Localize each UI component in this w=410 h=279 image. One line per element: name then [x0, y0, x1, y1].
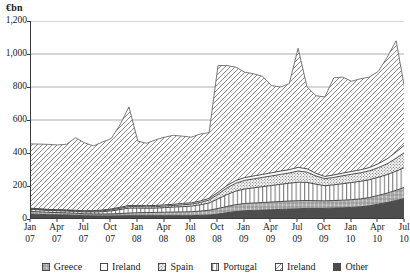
x-axis-tick-mark: [217, 219, 218, 222]
y-axis-tick-label: 1,200: [0, 16, 27, 26]
legend-swatch-icon: [42, 263, 50, 271]
x-axis-tick-mark: [190, 219, 191, 222]
x-axis-tick-mark: [163, 219, 164, 222]
legend-label: Greece: [54, 262, 82, 272]
legend-swatch-icon: [158, 263, 166, 271]
x-axis-tick-label: Oct07: [103, 222, 117, 245]
x-axis-tick-label: Apr07: [49, 222, 64, 245]
legend-swatch-icon: [211, 263, 219, 271]
y-axis-tick-label: 1,000: [0, 49, 27, 59]
y-axis-unit-title: €bn: [6, 2, 23, 13]
y-axis-tick-label: 800: [0, 82, 27, 92]
x-axis-tick-mark: [350, 219, 351, 222]
x-axis-tick-mark: [83, 219, 84, 222]
x-axis-tick-label: Oct08: [210, 222, 224, 245]
x-axis-tick-label: Jul08: [185, 222, 196, 245]
x-axis-tick-label: Jul07: [78, 222, 89, 245]
legend-label: Ireland: [287, 262, 315, 272]
x-axis-tick-label: Oct09: [317, 222, 331, 245]
x-axis-labels: Jan07Apr07Jul07Oct07Jan08Apr08Jul08Oct08…: [30, 222, 404, 256]
y-axis-tick-label: 400: [0, 148, 27, 158]
x-axis-tick-mark: [110, 219, 111, 222]
x-axis-tick-mark: [136, 219, 137, 222]
x-axis-tick-mark: [243, 219, 244, 222]
legend-swatch-icon: [100, 263, 108, 271]
x-axis-tick-mark: [297, 219, 298, 222]
y-axis-tick-label: 200: [0, 181, 27, 191]
x-axis-tick-label: Apr10: [370, 222, 385, 245]
legend-item-spain-2[interactable]: Spain: [158, 262, 193, 272]
stacked-area-svg: [31, 21, 404, 219]
x-axis-tick-label: Apr09: [263, 222, 278, 245]
legend-item-ireland-1[interactable]: Ireland: [100, 262, 140, 272]
legend-label: Spain: [170, 262, 193, 272]
y-axis-tick-label: 600: [0, 115, 27, 125]
plot-area: [30, 21, 404, 219]
chart-container: €bn 02004006008001,0001,200: [0, 0, 410, 279]
legend-item-other-5[interactable]: Other: [333, 262, 368, 272]
y-axis-labels: 02004006008001,0001,200: [0, 21, 27, 219]
legend-label: Portugal: [223, 262, 257, 272]
x-axis-tick-label: Jan10: [344, 222, 357, 245]
x-axis-tick-mark: [270, 219, 271, 222]
x-axis-tick-mark: [377, 219, 378, 222]
x-axis-tick-mark: [30, 219, 31, 222]
chart-legend: GreeceIrelandSpainPortugalIrelandOther: [0, 258, 410, 276]
x-axis-tick-mark: [323, 219, 324, 222]
x-axis-tick-label: Jul10: [398, 222, 409, 245]
legend-label: Other: [345, 262, 368, 272]
x-axis-tick-label: Jan09: [237, 222, 250, 245]
x-axis-tick-label: Apr08: [156, 222, 171, 245]
legend-swatch-icon: [275, 263, 283, 271]
legend-item-portugal-3[interactable]: Portugal: [211, 262, 257, 272]
x-axis-tick-label: Jan08: [131, 222, 144, 245]
legend-label: Ireland: [112, 262, 140, 272]
x-axis-tick-label: Jul09: [292, 222, 303, 245]
legend-item-ireland-4[interactable]: Ireland: [275, 262, 315, 272]
x-axis-tick-mark: [404, 219, 405, 222]
x-axis-tick-mark: [56, 219, 57, 222]
legend-swatch-icon: [333, 263, 341, 271]
x-axis-tick-label: Jan07: [24, 222, 37, 245]
legend-item-greece-0[interactable]: Greece: [42, 262, 82, 272]
